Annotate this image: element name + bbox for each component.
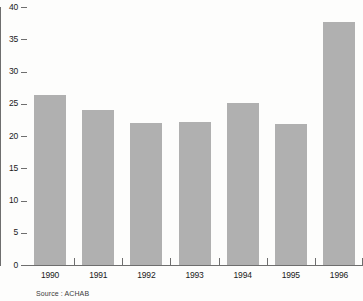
y-axis-tick xyxy=(21,265,27,266)
x-axis-tick-label: 1993 xyxy=(170,271,218,280)
source-note: Source : ACHAB xyxy=(36,290,89,297)
y-axis-tick-label: 5 xyxy=(1,228,18,237)
bar xyxy=(179,122,211,265)
x-axis-tick-label: 1996 xyxy=(315,271,363,280)
x-axis-tick-label: 1991 xyxy=(74,271,122,280)
x-axis-tick-label: 1995 xyxy=(267,271,315,280)
bar xyxy=(130,123,162,265)
y-axis-tick-label: 15 xyxy=(1,164,18,173)
y-axis-tick-label-wrap: 20 xyxy=(0,132,18,141)
y-axis-tick-label: 25 xyxy=(1,99,18,108)
bar-chart-figure: 0510152025303540 19901991199219931994199… xyxy=(0,0,363,301)
bar xyxy=(275,124,307,265)
y-axis-tick-label-wrap: 30 xyxy=(0,67,18,76)
x-axis-tick-label: 1990 xyxy=(26,271,74,280)
y-axis-tick-label-wrap: 5 xyxy=(0,228,18,237)
y-axis-tick-label-wrap: 0 xyxy=(0,261,18,270)
y-axis-tick-label-wrap: 40 xyxy=(0,3,18,12)
bar xyxy=(82,110,114,265)
y-axis-tick-label: 10 xyxy=(1,196,18,205)
x-axis-tick-label: 1994 xyxy=(219,271,267,280)
bars-layer xyxy=(26,7,363,265)
bar xyxy=(323,22,355,265)
y-axis-tick-label: 30 xyxy=(1,67,18,76)
bar xyxy=(34,95,66,265)
x-axis-tick-label: 1992 xyxy=(122,271,170,280)
x-axis-line xyxy=(26,265,363,266)
y-axis-tick-label-wrap: 10 xyxy=(0,196,18,205)
y-axis-tick-label: 40 xyxy=(1,3,18,12)
y-axis-tick-label-wrap: 35 xyxy=(0,35,18,44)
bar xyxy=(227,103,259,265)
y-axis-tick-label: 20 xyxy=(1,132,18,141)
y-axis-tick-label-wrap: 25 xyxy=(0,99,18,108)
y-axis-tick-label-wrap: 15 xyxy=(0,164,18,173)
y-axis-tick-label: 0 xyxy=(1,261,18,270)
y-axis-tick-label: 35 xyxy=(1,35,18,44)
